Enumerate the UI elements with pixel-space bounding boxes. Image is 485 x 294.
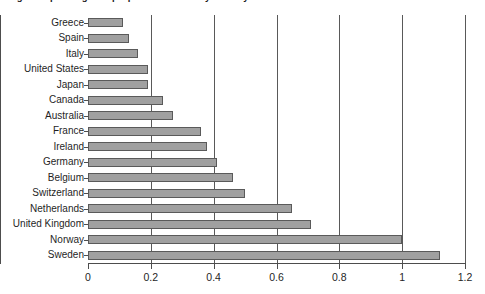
x-axis-label: 0 — [85, 271, 91, 283]
y-axis-tick — [84, 240, 88, 241]
y-axis-tick — [84, 85, 88, 86]
y-axis-label: Belgium — [48, 172, 84, 183]
bar-row — [88, 46, 465, 62]
y-axis-tick — [84, 23, 88, 24]
bar — [88, 142, 207, 151]
y-axis-label: France — [53, 125, 84, 136]
x-axis-tick — [151, 264, 152, 269]
y-axis-tick — [84, 100, 88, 101]
bar-row — [88, 31, 465, 47]
bar-row — [88, 93, 465, 109]
y-axis-label: United Kingdom — [13, 218, 84, 229]
bar-row — [88, 77, 465, 93]
bar-row — [88, 108, 465, 124]
x-axis-label: 1.2 — [458, 271, 473, 283]
y-axis-tick — [84, 54, 88, 55]
x-axis-label: 0.8 — [332, 271, 347, 283]
y-axis-tick — [84, 224, 88, 225]
figure-title: Figure: Spending as a proportion of GDP … — [8, 0, 478, 3]
y-axis-line — [0, 15, 1, 264]
bar — [88, 34, 129, 43]
x-axis-tick — [402, 264, 403, 269]
bar-row — [88, 155, 465, 171]
y-axis-tick — [84, 209, 88, 210]
y-axis-tick — [84, 255, 88, 256]
y-axis-tick — [84, 162, 88, 163]
y-axis-label: Netherlands — [30, 203, 84, 214]
y-axis-tick — [84, 147, 88, 148]
x-axis-tick — [465, 264, 466, 269]
y-axis-label: Italy — [66, 48, 84, 59]
x-axis-tick — [339, 264, 340, 269]
y-axis-tick — [84, 38, 88, 39]
x-axis-tick — [277, 264, 278, 269]
plot-area — [88, 15, 465, 263]
y-axis-label: Ireland — [53, 141, 84, 152]
bar — [88, 251, 440, 260]
y-axis-label: Spain — [58, 32, 84, 43]
bar — [88, 96, 163, 105]
x-axis-label: 0.6 — [269, 271, 284, 283]
bar-row — [88, 217, 465, 233]
bar — [88, 220, 311, 229]
y-axis-tick — [84, 131, 88, 132]
bar-row — [88, 232, 465, 248]
y-axis-label: United States — [24, 63, 84, 74]
bar — [88, 158, 217, 167]
bar-chart-figure: Figure: Spending as a proportion of GDP … — [0, 0, 485, 294]
y-axis-label: Switzerland — [32, 187, 84, 198]
y-axis-label: Sweden — [48, 249, 84, 260]
x-axis-label: 1 — [399, 271, 405, 283]
bar — [88, 189, 245, 198]
bar-row — [88, 186, 465, 202]
bar — [88, 173, 233, 182]
bar-row — [88, 15, 465, 31]
x-axis-label: 0.2 — [144, 271, 159, 283]
y-axis-tick — [84, 178, 88, 179]
bar — [88, 235, 402, 244]
y-axis-tick — [84, 69, 88, 70]
bar — [88, 204, 292, 213]
y-axis-label: Canada — [49, 94, 84, 105]
y-axis-label: Australia — [45, 110, 84, 121]
x-axis-tick — [88, 264, 89, 269]
bar — [88, 65, 148, 74]
y-axis-label: Greece — [51, 17, 84, 28]
y-axis-tick — [84, 116, 88, 117]
y-axis-tick — [84, 193, 88, 194]
bar-row — [88, 201, 465, 217]
bar-row — [88, 248, 465, 264]
bar-row — [88, 124, 465, 140]
bar — [88, 80, 148, 89]
bar-row — [88, 170, 465, 186]
bar — [88, 127, 201, 136]
gridline — [465, 15, 466, 263]
x-axis-tick — [214, 264, 215, 269]
bar — [88, 49, 138, 58]
x-axis-label: 0.4 — [206, 271, 221, 283]
bar — [88, 111, 173, 120]
bar-row — [88, 139, 465, 155]
bar-row — [88, 62, 465, 78]
y-axis-label: Norway — [50, 234, 84, 245]
y-axis-label: Japan — [57, 79, 84, 90]
bar — [88, 18, 123, 27]
y-axis-label: Germany — [43, 156, 84, 167]
